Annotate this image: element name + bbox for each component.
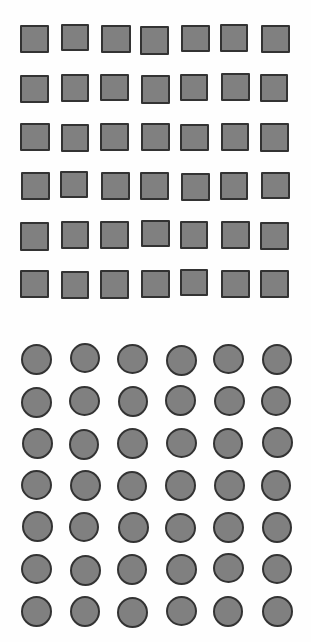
circle-shape	[70, 596, 100, 627]
square-shape	[101, 172, 130, 200]
circle-shape	[117, 344, 148, 374]
square-shape	[221, 270, 250, 298]
circle-shape	[22, 511, 53, 542]
circle-shape	[165, 513, 196, 543]
square-shape	[20, 123, 50, 151]
circle-shape	[213, 428, 243, 459]
circle-shape	[69, 429, 99, 460]
square-shape	[61, 24, 89, 51]
circle-shape	[166, 596, 197, 626]
square-shape	[60, 171, 88, 198]
circle-shape	[70, 343, 100, 373]
circle-shape	[69, 386, 100, 416]
square-shape	[20, 25, 49, 53]
circle-shape	[214, 470, 245, 501]
circle-shape	[70, 470, 101, 501]
square-shape	[220, 24, 248, 52]
square-shape	[141, 123, 170, 151]
circle-shape	[166, 345, 197, 376]
square-shape	[180, 124, 209, 151]
circle-shape	[21, 554, 52, 584]
circle-shape	[118, 512, 149, 543]
square-shape	[260, 270, 289, 298]
square-shape	[61, 271, 89, 299]
square-shape	[20, 270, 49, 298]
circle-shape	[69, 512, 99, 542]
square-shape	[61, 221, 89, 249]
square-shape	[221, 221, 250, 249]
circle-shape	[21, 470, 52, 500]
circle-shape	[166, 428, 197, 458]
circle-shape	[117, 597, 148, 628]
square-shape	[61, 74, 89, 102]
circle-shape	[165, 470, 196, 501]
shape-grid-canvas	[0, 0, 311, 642]
square-shape	[261, 25, 290, 53]
square-shape	[181, 25, 210, 52]
circle-shape	[22, 428, 53, 459]
square-shape	[140, 26, 169, 55]
circle-shape	[165, 385, 196, 416]
circle-shape	[117, 428, 148, 459]
square-shape	[100, 270, 129, 299]
circle-shape	[21, 387, 52, 418]
circle-shape	[118, 386, 148, 417]
square-shape	[261, 172, 290, 199]
circle-shape	[117, 554, 147, 585]
square-shape	[141, 75, 170, 104]
square-shape	[21, 172, 50, 200]
circle-shape	[261, 470, 291, 501]
square-shape	[220, 172, 248, 200]
square-shape	[180, 74, 208, 101]
square-shape	[101, 25, 131, 53]
circle-shape	[117, 471, 147, 501]
square-shape	[61, 124, 89, 152]
square-shape	[141, 220, 170, 247]
square-shape	[260, 74, 288, 102]
circle-shape	[214, 386, 245, 416]
circle-shape	[262, 344, 292, 375]
circle-shape	[213, 596, 243, 627]
circle-shape	[262, 596, 293, 627]
circle-shape	[261, 386, 291, 416]
square-shape	[100, 74, 129, 101]
square-shape	[100, 221, 129, 249]
circle-shape	[213, 512, 244, 543]
square-shape	[221, 123, 249, 151]
square-shape	[260, 222, 289, 250]
square-shape	[180, 269, 208, 296]
circle-shape	[21, 344, 52, 375]
square-shape	[180, 221, 208, 249]
circle-shape	[166, 554, 197, 585]
square-shape	[181, 173, 210, 201]
square-shape	[20, 222, 49, 251]
square-shape	[141, 270, 170, 298]
circle-shape	[262, 427, 293, 458]
circle-shape	[21, 596, 52, 627]
square-shape	[260, 123, 289, 152]
square-shape	[20, 75, 49, 103]
square-shape	[100, 123, 129, 151]
circle-shape	[213, 553, 244, 583]
circle-shape	[70, 555, 101, 586]
square-shape	[140, 172, 169, 200]
circle-shape	[213, 344, 244, 374]
square-shape	[221, 73, 250, 101]
circle-shape	[262, 554, 292, 584]
circle-shape	[262, 512, 292, 543]
